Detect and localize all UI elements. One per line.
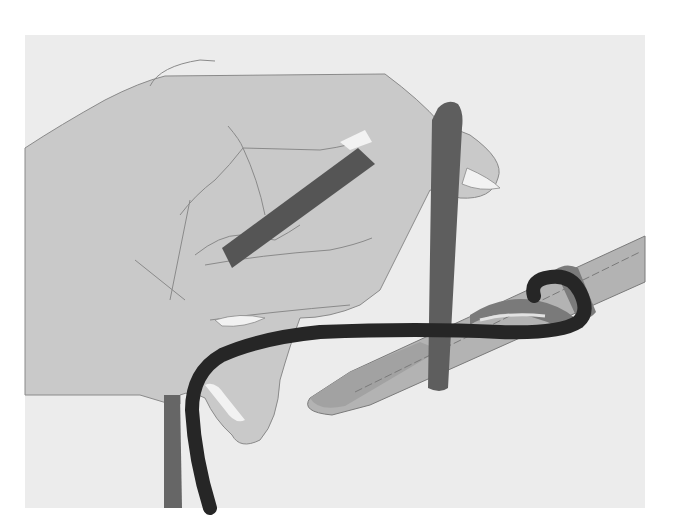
hanging-strand <box>164 395 182 508</box>
illustration-stage <box>0 0 673 528</box>
knitting-illustration <box>0 0 673 528</box>
